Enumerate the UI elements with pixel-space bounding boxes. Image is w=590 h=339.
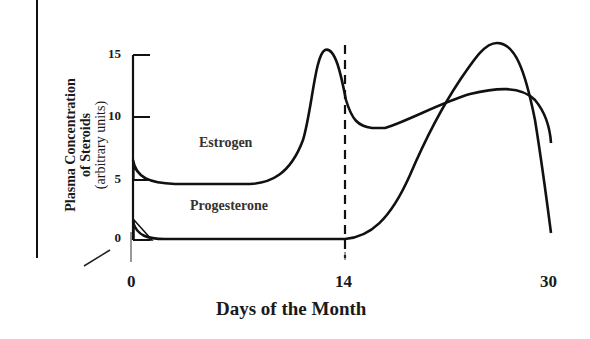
y-axis-label-line1: Plasma Concentration (63, 78, 78, 211)
x-axis-label: Days of the Month (216, 298, 366, 320)
y-axis-label-line3: (arbitrary units) (93, 78, 108, 211)
estrogen-label: Estrogen (199, 135, 252, 151)
y-tick-label-0: 0 (101, 230, 121, 246)
estrogen-curve (133, 50, 551, 184)
x-tick-label-30: 30 (540, 272, 557, 292)
y-tick-label-15: 15 (101, 46, 121, 62)
y-axis-label: Plasma Concentration of Steroids (arbitr… (45, 30, 125, 260)
progesterone-label: Progesterone (190, 198, 268, 214)
y-axis-label-line2: of Steroids (78, 78, 93, 211)
x-tick-label-0: 0 (127, 272, 136, 292)
y-tick-label-10: 10 (101, 108, 121, 124)
y-tick-label-5: 5 (101, 171, 121, 187)
x-tick-label-14: 14 (335, 272, 352, 292)
